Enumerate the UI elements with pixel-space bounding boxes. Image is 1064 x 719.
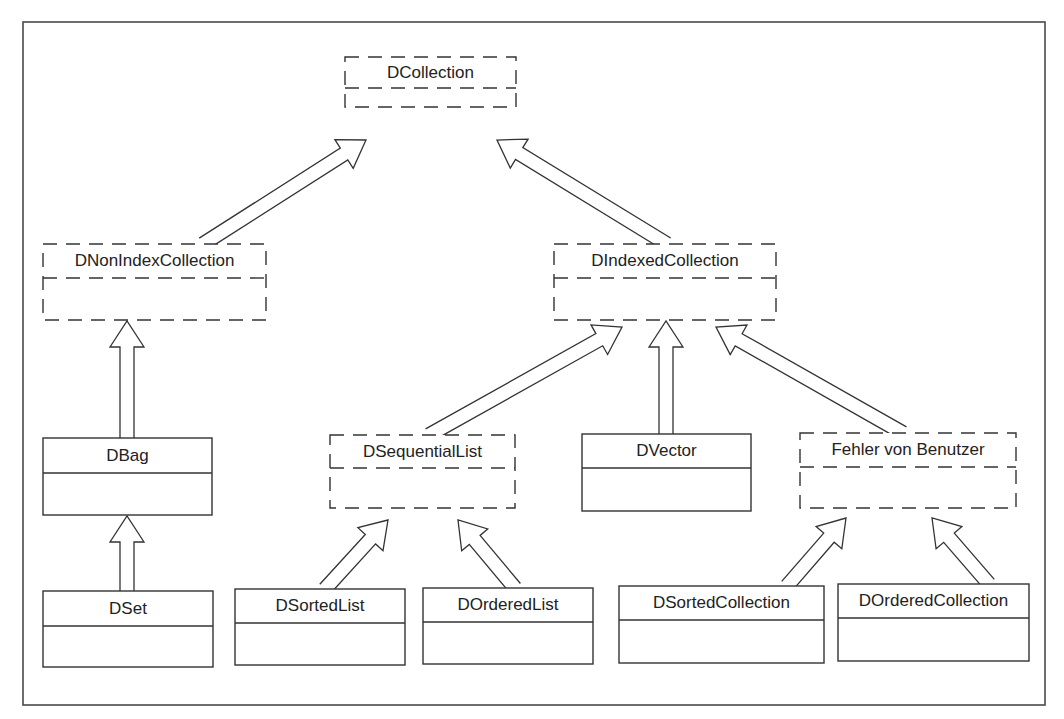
class-box-dindexedcollection[interactable]: DIndexedCollection xyxy=(554,244,776,320)
class-name-label: DBag xyxy=(106,446,149,465)
generalization-arrow-icon xyxy=(716,325,907,439)
generalization-arrow-icon xyxy=(497,139,671,250)
class-name-label: DSequentialList xyxy=(363,442,482,461)
class-box-dsortedcollection[interactable]: DSortedCollection xyxy=(619,586,824,663)
class-name-label: DOrderedCollection xyxy=(859,591,1008,610)
class-box-dset[interactable]: DSet xyxy=(43,591,213,667)
class-name-label: DSortedCollection xyxy=(653,593,790,612)
class-box-dorderedcollection[interactable]: DOrderedCollection xyxy=(838,584,1029,661)
generalization-arrow-icon xyxy=(458,520,520,593)
class-name-label: DOrderedList xyxy=(457,595,558,614)
generalization-arrow-icon xyxy=(426,325,622,441)
class-box-dbag[interactable]: DBag xyxy=(43,438,212,515)
uml-class-diagram: DCollectionDNonIndexCollectionDIndexedCo… xyxy=(0,0,1064,719)
class-name-label: DVector xyxy=(636,441,697,460)
class-name-label: DCollection xyxy=(387,63,474,82)
class-name-label: DSet xyxy=(109,599,147,618)
generalization-arrow-icon xyxy=(649,321,683,434)
generalization-arrows xyxy=(110,139,994,594)
class-box-dcollection[interactable]: DCollection xyxy=(345,57,516,107)
generalization-arrow-icon xyxy=(782,518,846,591)
class-box-dsequentiallist[interactable]: DSequentialList xyxy=(330,435,515,508)
generalization-arrow-icon xyxy=(110,516,144,591)
class-box-dvector[interactable]: DVector xyxy=(582,434,751,511)
generalization-arrow-icon xyxy=(199,140,366,250)
class-box-fehlervonbenutzer[interactable]: Fehler von Benutzer xyxy=(800,433,1016,508)
generalization-arrow-icon xyxy=(320,520,388,594)
class-name-label: Fehler von Benutzer xyxy=(831,440,984,459)
class-name-label: DNonIndexCollection xyxy=(75,251,235,270)
generalization-arrow-icon xyxy=(110,321,144,438)
class-box-dnonindexcollection[interactable]: DNonIndexCollection xyxy=(43,244,266,320)
class-name-label: DIndexedCollection xyxy=(591,251,738,270)
generalization-arrow-icon xyxy=(932,518,994,589)
class-box-dsortedlist[interactable]: DSortedList xyxy=(235,589,405,665)
class-name-label: DSortedList xyxy=(276,596,365,615)
class-box-dorderedlist[interactable]: DOrderedList xyxy=(423,588,593,664)
class-boxes: DCollectionDNonIndexCollectionDIndexedCo… xyxy=(43,57,1029,667)
